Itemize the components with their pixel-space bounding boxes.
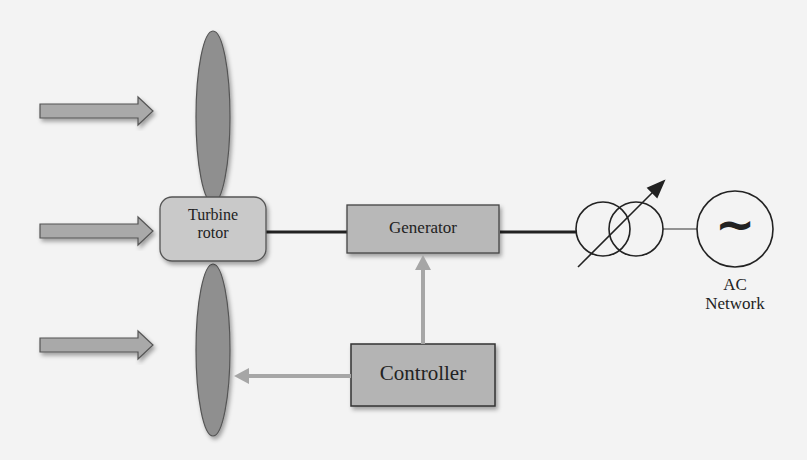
ac-label-line2: Network (690, 295, 780, 314)
turbine-rotor-label: Turbine rotor (160, 206, 266, 241)
blade-top-icon (196, 31, 230, 203)
generator-label: Generator (347, 219, 499, 238)
ac-symbol: ~ (697, 198, 773, 251)
turbine-label-line1: Turbine (160, 206, 266, 224)
wind-arrow-icon (40, 97, 153, 125)
control-arrow-to-generator (415, 255, 431, 344)
wind-arrow-icon (40, 331, 153, 359)
ac-label-line1: AC (690, 276, 780, 295)
wind-arrow-icon (40, 217, 153, 245)
control-arrow-to-blade (234, 368, 351, 384)
ac-network-label: AC Network (690, 276, 780, 313)
transformer-icon (576, 181, 664, 267)
controller-label: Controller (351, 362, 495, 385)
blade-bottom-icon (196, 264, 230, 436)
turbine-label-line2: rotor (160, 224, 266, 242)
